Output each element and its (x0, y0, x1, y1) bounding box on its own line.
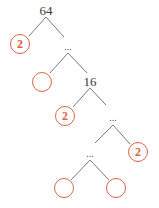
empty-factor-circle-1 (32, 72, 52, 92)
tree-edge (95, 125, 113, 143)
factor-tree-diagram: 64 2 ... 16 2 ... 2 ... (0, 0, 159, 208)
tree-edge (73, 88, 90, 107)
factor-label: 2 (62, 109, 68, 124)
node-64: 64 (40, 4, 53, 17)
node-16: 16 (84, 75, 97, 88)
ellipsis-node-1: ... (64, 42, 72, 52)
empty-factor-circle-2 (54, 178, 74, 198)
tree-edge (68, 53, 87, 73)
tree-edge (90, 160, 109, 180)
prime-factor-circle-3: 2 (128, 142, 148, 162)
factor-label: 2 (17, 37, 23, 52)
prime-factor-circle-2: 2 (55, 106, 75, 126)
tree-edge (46, 17, 64, 37)
tree-edge (113, 125, 130, 144)
factor-label: 2 (135, 145, 141, 160)
tree-edge (71, 160, 90, 180)
tree-edge (90, 88, 106, 105)
ellipsis-node-2: ... (109, 113, 117, 123)
ellipsis-node-3: ... (86, 149, 94, 159)
tree-edges (0, 0, 159, 208)
tree-edge (29, 17, 46, 36)
prime-factor-circle-1: 2 (10, 34, 30, 54)
empty-factor-circle-3 (106, 178, 126, 198)
tree-edge (50, 53, 68, 73)
